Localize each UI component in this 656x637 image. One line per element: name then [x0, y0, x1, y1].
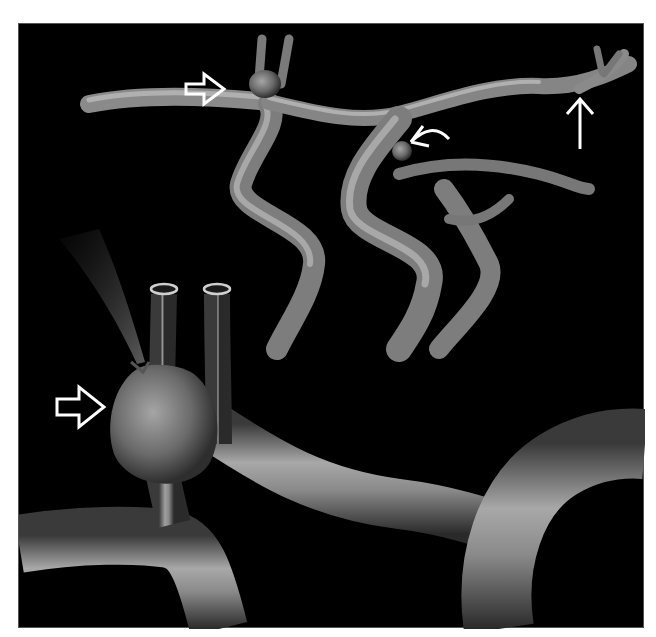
aneurysm-middle [392, 141, 412, 161]
illustration-panel [18, 23, 644, 628]
magnified-vessels [19, 294, 645, 629]
vessel-opening-right [204, 284, 230, 294]
aneurysm-magnified [110, 365, 217, 484]
vessel-opening-left [151, 284, 177, 294]
up-arrow-icon [567, 99, 593, 149]
vessel-illustration [19, 24, 645, 629]
open-arrow-icon-magnified [57, 387, 104, 427]
rupture-jet [59, 229, 145, 364]
aneurysm-top-left [249, 70, 281, 98]
